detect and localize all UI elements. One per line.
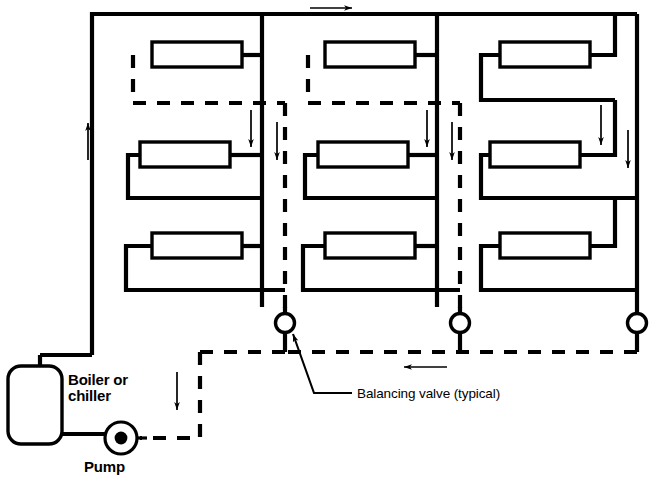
boiler-label-line-1: Boiler or	[68, 371, 128, 388]
coil-2-1	[325, 42, 415, 67]
balancing-valve-1[interactable]	[276, 314, 295, 333]
coil-3-2	[490, 142, 580, 167]
boiler-or-chiller-label: Boiler orchiller	[68, 372, 128, 404]
pump-label: Pump	[84, 458, 125, 475]
coil-1-1	[152, 42, 242, 67]
coil-bank-1	[126, 14, 285, 307]
pump-impeller-dot	[115, 432, 128, 445]
balancing-valve-2-symbol[interactable]	[451, 314, 470, 333]
piping-diagram-canvas: Boiler orchiller Pump Balancing valve (t…	[0, 0, 649, 491]
coil-2-3	[325, 233, 415, 258]
coil-3-3	[500, 233, 590, 258]
piping-schematic-svg	[0, 0, 649, 491]
coil-1-3	[152, 233, 242, 258]
balancing-valve-1-symbol[interactable]	[276, 314, 295, 333]
boiler-or-chiller-body[interactable]	[8, 366, 62, 444]
pump[interactable]	[105, 422, 147, 454]
coil-bank-3	[481, 14, 637, 307]
callout-leader-path	[293, 334, 352, 393]
balancing-valve-callout-leader	[293, 334, 352, 393]
coil-1-2	[140, 142, 230, 167]
balancing-valve-3[interactable]	[628, 314, 647, 333]
return-to-pump	[140, 352, 200, 438]
coil-3-2-supply-branch	[580, 100, 615, 155]
balancing-valve-callout-label: Balancing valve (typical)	[357, 386, 500, 401]
balancing-valve-3-symbol[interactable]	[628, 314, 647, 333]
coil-3-1-supply-branch	[590, 14, 615, 55]
coil-2-2	[318, 142, 408, 167]
coil-3-3-supply-branch	[590, 198, 615, 246]
coil-bank-2	[303, 14, 460, 307]
coil-3-1	[500, 42, 590, 67]
balancing-valve-2[interactable]	[451, 314, 470, 333]
boiler-label-line-2: chiller	[68, 387, 111, 404]
